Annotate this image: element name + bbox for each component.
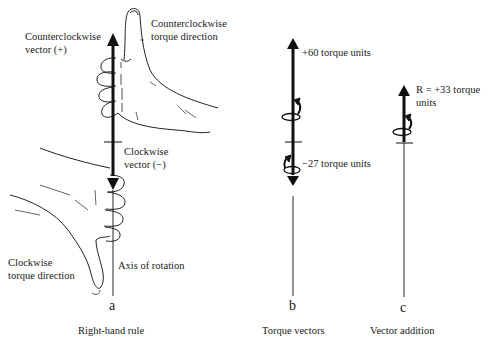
axis-of-rotation-label: Axis of rotation [118, 259, 185, 272]
panel-c-caption: Vector addition [370, 325, 434, 336]
cw-torque-label-line2: torque direction [8, 269, 75, 282]
ccw-torque-label-line2: torque direction [151, 30, 227, 43]
cw-vector-label-line1: Clockwise [124, 145, 168, 158]
resultant-torque-label-line1: R = +33 torque [416, 83, 480, 96]
ccw-vector-label-line1: Counterclockwise [25, 30, 101, 43]
cw-torque-label: Clockwise torque direction [8, 256, 75, 282]
ccw-vector-label-line2: vector (+) [25, 43, 101, 56]
panel-c-illustration [393, 85, 413, 297]
panel-a-up-arrowhead-icon [107, 33, 119, 46]
panel-c-up-arrowhead-icon [398, 85, 410, 96]
panel-a-caption: Right-hand rule [78, 325, 144, 336]
panel-a-down-arrowhead-icon [107, 178, 119, 190]
panel-b-down-arrowhead-icon [287, 176, 299, 186]
panel-b-up-arrowhead-icon [287, 38, 299, 49]
cw-vector-label-line2: vector (−) [124, 158, 168, 171]
resultant-torque-label: R = +33 torque units [416, 83, 480, 109]
cw-vector-label: Clockwise vector (−) [124, 145, 168, 171]
panel-b-ccw-curl-icon [282, 98, 300, 121]
panel-c-letter: c [400, 300, 406, 316]
resultant-torque-label-line2: units [416, 96, 480, 109]
panel-b-caption: Torque vectors [262, 325, 325, 336]
negative-torque-label: −27 torque units [302, 157, 371, 170]
panel-c-ccw-curl-icon [393, 114, 411, 136]
positive-torque-label: +60 torque units [302, 46, 371, 59]
ccw-torque-label-line1: Counterclockwise [151, 17, 227, 30]
ccw-vector-label: Counterclockwise vector (+) [25, 30, 101, 56]
panel-a-letter: a [109, 298, 115, 314]
ccw-torque-label: Counterclockwise torque direction [151, 17, 227, 43]
panel-b-illustration [282, 38, 302, 296]
panel-b-letter: b [289, 298, 296, 314]
cw-torque-label-line1: Clockwise [8, 256, 75, 269]
